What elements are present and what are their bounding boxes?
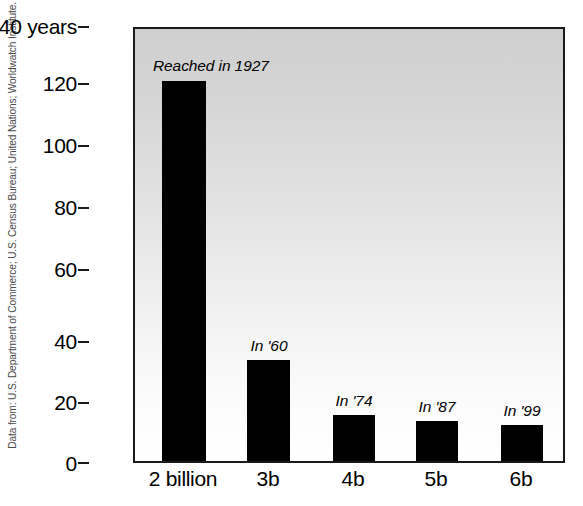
y-tick-mark-60	[78, 269, 89, 271]
chart-page: Data from: U.S. Department of Commerce; …	[0, 0, 583, 506]
y-tick-label-0: 0	[66, 452, 77, 476]
y-tick-label-120: 120	[43, 72, 77, 96]
y-axis: 140 years 120 100 80 60 40 20 0	[0, 0, 133, 506]
bar-4b	[333, 415, 375, 461]
y-tick-label-60: 60	[54, 258, 77, 282]
y-tick-label-20: 20	[54, 391, 77, 415]
y-tick-label-40: 40	[54, 330, 77, 354]
bar-annotation-5b: In '87	[404, 398, 470, 416]
x-axis: 2 billion 3b 4b 5b 6b	[133, 465, 565, 505]
y-tick-mark-20	[78, 402, 89, 404]
y-tick-mark-140	[78, 26, 89, 28]
y-tick-mark-100	[78, 145, 89, 147]
y-tick-label-140: 140 years	[0, 15, 77, 39]
bar-2-billion	[162, 81, 206, 461]
bar-annotation-6b: In '99	[489, 402, 555, 420]
bar-6b	[501, 425, 543, 461]
y-tick-mark-120	[78, 83, 89, 85]
bar-3b	[247, 360, 290, 461]
plot-area: Reached in 1927 In '60 In '74 In '87 In …	[135, 29, 563, 461]
y-tick-mark-80	[78, 207, 89, 209]
y-tick-mark-0	[78, 462, 89, 464]
bar-annotation-3b: In '60	[236, 337, 302, 355]
y-tick-label-100: 100	[43, 134, 77, 158]
y-tick-label-80: 80	[54, 196, 77, 220]
y-tick-mark-40	[78, 341, 89, 343]
bar-5b	[416, 421, 458, 461]
x-tick-label-6b: 6b	[467, 467, 575, 491]
bar-annotation-2-billion: Reached in 1927	[153, 57, 303, 75]
bar-annotation-4b: In '74	[321, 392, 387, 410]
plot-frame: Reached in 1927 In '60 In '74 In '87 In …	[133, 27, 565, 463]
